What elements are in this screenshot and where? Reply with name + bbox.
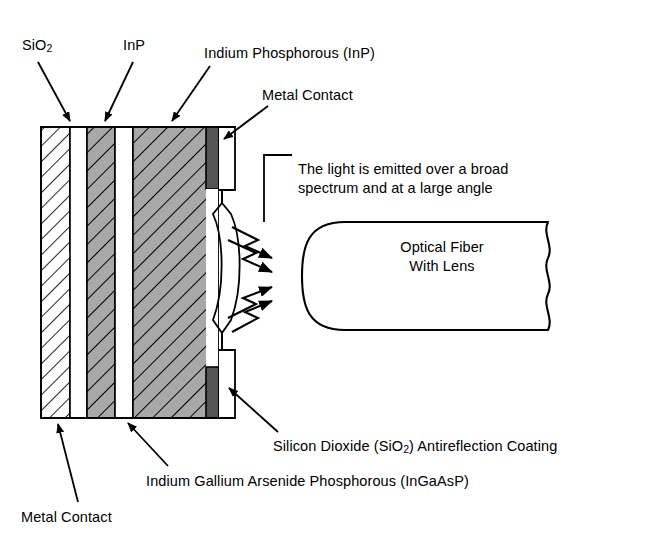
- label-ingaasp: Indium Gallium Arsenide Phosphorous (InG…: [146, 472, 469, 491]
- label-emission-note: The light is emitted over a broad spectr…: [298, 160, 628, 198]
- leader-emission-note: [264, 155, 292, 222]
- label-metal-contact-bottom: Metal Contact: [21, 508, 112, 527]
- ingaasp-layer: [133, 127, 207, 418]
- metal-contact-bottom-block: [206, 367, 219, 418]
- gap-1: [70, 127, 87, 418]
- metal-contact-top-block: [206, 127, 219, 189]
- emission-note-line-2: spectrum and at a large angle: [298, 179, 628, 198]
- metal-column-gap: [206, 189, 219, 367]
- gap-2: [115, 127, 133, 418]
- fiber-label-line-2: With Lens: [377, 257, 507, 276]
- leader-metal-top: [224, 106, 268, 139]
- leader-sio2-ar: [229, 388, 278, 432]
- leader-inp-full: [172, 66, 210, 121]
- fiber-label-line-1: Optical Fiber: [377, 238, 507, 257]
- inp-layer: [87, 127, 115, 418]
- leader-sio2: [38, 62, 70, 121]
- diagram-graphics: [0, 0, 658, 543]
- label-indium-phosphorous: Indium Phosphorous (InP): [204, 44, 375, 63]
- leader-inp: [105, 62, 133, 121]
- sio2-subscript: 2: [46, 42, 52, 54]
- label-metal-contact-top: Metal Contact: [262, 86, 353, 105]
- label-inp: InP: [123, 36, 145, 55]
- label-sio2: SiO2: [22, 36, 52, 56]
- device-cross-section: [41, 127, 219, 418]
- label-optical-fiber: Optical Fiber With Lens: [377, 238, 507, 276]
- leader-ingaasp: [128, 423, 168, 466]
- label-sio2-antireflection-coating: Silicon Dioxide (SiO2) Antireflection Co…: [273, 437, 557, 457]
- led-fiber-coupling-diagram: SiO2 InP Indium Phosphorous (InP) Metal …: [0, 0, 658, 543]
- emission-note-line-1: The light is emitted over a broad: [298, 160, 628, 179]
- leader-metal-bottom: [58, 424, 78, 502]
